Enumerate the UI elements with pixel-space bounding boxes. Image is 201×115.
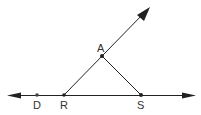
ray-RA <box>64 11 146 95</box>
point-R <box>62 93 66 97</box>
point-A <box>100 54 104 58</box>
right-arrowhead-icon <box>182 93 196 99</box>
geometry-diagram: D R A S <box>0 0 201 115</box>
point-S <box>139 93 143 97</box>
point-D <box>35 93 39 97</box>
label-A: A <box>97 42 105 54</box>
left-arrowhead-icon <box>7 93 21 99</box>
label-S: S <box>137 99 144 111</box>
label-D: D <box>33 99 41 111</box>
segment-AS <box>102 56 141 95</box>
label-R: R <box>60 99 68 111</box>
